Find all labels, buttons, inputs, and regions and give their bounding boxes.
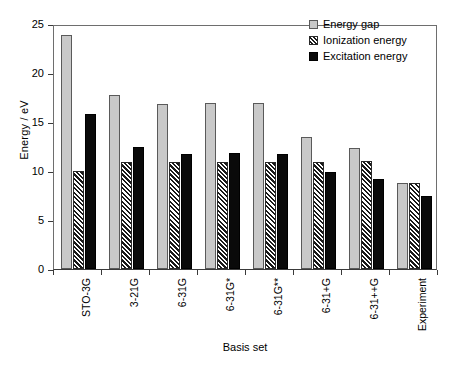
bar-gap <box>157 104 168 269</box>
y-tick-label: 10 <box>18 166 44 177</box>
bar-exc <box>421 196 432 270</box>
bar-gap <box>61 35 72 269</box>
bar-gap <box>253 103 264 269</box>
bar-gap <box>349 148 360 269</box>
bar-gap <box>109 95 120 269</box>
x-tick-mark <box>293 270 294 275</box>
bar-group <box>342 26 390 269</box>
chart-legend: Energy gap Ionization energy Excitation … <box>309 18 407 62</box>
legend-item-ionization-energy: Ionization energy <box>309 34 407 46</box>
legend-label: Energy gap <box>323 18 379 30</box>
bar-exc <box>373 179 384 269</box>
bar-ion <box>121 162 132 269</box>
bar-chart-figure: Energy / eV 2520151050 STO-3G3-21G6-31G6… <box>0 0 455 365</box>
x-tick-mark <box>389 270 390 275</box>
bar-ion <box>73 171 84 269</box>
y-tick-label: 5 <box>18 215 44 226</box>
bar-group <box>390 26 438 269</box>
x-tick-mark <box>341 270 342 275</box>
legend-label: Excitation energy <box>323 50 407 62</box>
bar-gap <box>397 183 408 269</box>
x-axis-title: Basis set <box>53 341 437 353</box>
x-tick-mark <box>53 270 54 275</box>
bar-group <box>150 26 198 269</box>
legend-item-energy-gap: Energy gap <box>309 18 407 30</box>
bar-exc <box>85 114 96 269</box>
black-square-icon <box>309 52 318 61</box>
bar-ion <box>313 162 324 269</box>
bar-group <box>102 26 150 269</box>
x-tick-mark <box>101 270 102 275</box>
bar-group <box>294 26 342 269</box>
bar-gap <box>205 103 216 269</box>
bar-exc <box>181 154 192 269</box>
y-tick-label: 25 <box>18 19 44 30</box>
bar-exc <box>325 172 336 269</box>
bar-exc <box>229 153 240 269</box>
gray-square-icon <box>309 20 318 29</box>
bar-ion <box>265 162 276 269</box>
x-tick-mark <box>149 270 150 275</box>
legend-item-excitation-energy: Excitation energy <box>309 50 407 62</box>
hatched-square-icon <box>309 36 318 45</box>
bar-group <box>198 26 246 269</box>
bar-ion <box>169 162 180 269</box>
bar-gap <box>301 137 312 269</box>
x-tick-mark <box>197 270 198 275</box>
bar-exc <box>277 154 288 269</box>
bars-layer <box>54 26 436 269</box>
legend-label: Ionization energy <box>323 34 407 46</box>
y-tick-label: 15 <box>18 117 44 128</box>
bar-ion <box>361 161 372 269</box>
bar-group <box>246 26 294 269</box>
y-tick-label: 0 <box>18 264 44 275</box>
bar-ion <box>409 183 420 269</box>
x-tick-mark <box>437 270 438 275</box>
bar-ion <box>217 162 228 269</box>
x-tick-mark <box>245 270 246 275</box>
bar-exc <box>133 147 144 269</box>
y-tick-label: 20 <box>18 68 44 79</box>
bar-group <box>54 26 102 269</box>
